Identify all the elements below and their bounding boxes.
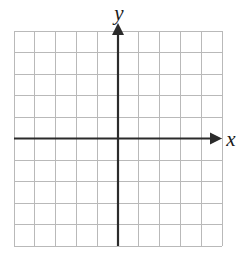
coordinate-plane-figure: y x <box>0 0 241 259</box>
figure-background <box>0 0 241 259</box>
x-axis-label: x <box>225 127 236 151</box>
y-axis-label: y <box>112 1 124 25</box>
coordinate-plane-svg: y x <box>0 0 241 259</box>
